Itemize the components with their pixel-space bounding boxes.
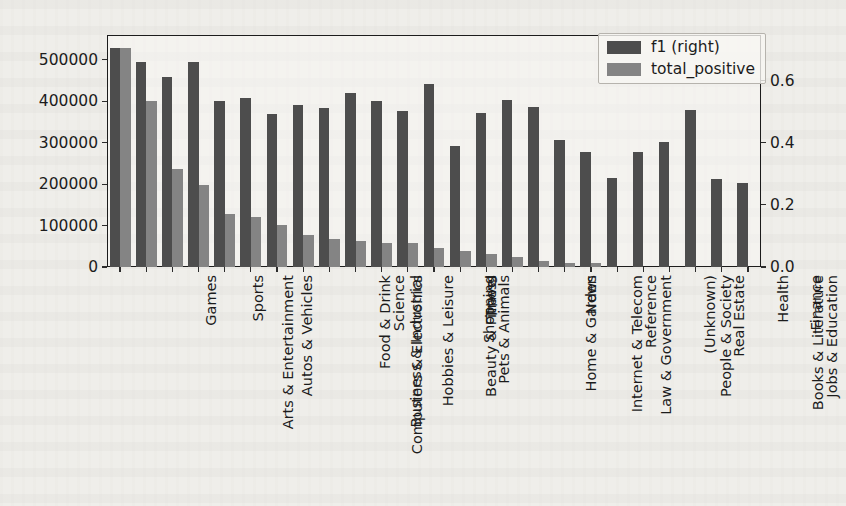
x-axis-category-label: Jobs & Education — [824, 275, 840, 398]
x-axis-tick — [695, 267, 696, 272]
bar-f1 — [319, 108, 329, 267]
chart-figure: 0100000200000300000400000500000 0.00.20.… — [0, 0, 846, 506]
bar-f1 — [528, 107, 538, 267]
left-axis-tick-label: 100000 — [39, 217, 98, 235]
x-axis-category-label: Autos & Vehicles — [299, 275, 315, 396]
bar-f1 — [607, 178, 617, 267]
bar-total-positive — [486, 254, 496, 267]
bar-f1 — [110, 48, 120, 267]
bar-f1 — [162, 77, 172, 267]
x-axis-tick — [329, 267, 330, 272]
legend-entry: f1 (right) — [607, 40, 755, 56]
legend-swatch-icon — [607, 63, 641, 76]
x-axis-tick — [172, 267, 173, 272]
bar-f1 — [293, 105, 303, 267]
bar-f1 — [502, 100, 512, 267]
x-axis-category-label: Finance — [809, 275, 825, 330]
bar-f1 — [737, 183, 747, 267]
bar-total-positive — [329, 239, 339, 267]
left-axis-tick-label: 400000 — [39, 92, 98, 110]
x-axis-tick — [669, 267, 670, 272]
right-axis-tick — [761, 266, 766, 267]
bar-f1 — [633, 152, 643, 267]
bar-total-positive — [146, 101, 156, 267]
x-axis-tick — [250, 267, 251, 272]
bar-total-positive — [408, 243, 418, 267]
x-axis-category-label: Food & Drink — [377, 275, 393, 369]
bar-total-positive — [512, 257, 522, 267]
bar-total-positive — [434, 248, 444, 267]
x-axis-category-label: Hobbies & Leisure — [440, 275, 456, 406]
bar-total-positive — [172, 169, 182, 267]
bar-total-positive — [539, 261, 549, 267]
bar-total-positive — [460, 251, 470, 267]
bar-total-positive — [303, 235, 313, 267]
bar-f1 — [659, 142, 669, 267]
x-axis-category-label: Business & Industrial — [409, 275, 425, 427]
x-axis-tick — [643, 267, 644, 272]
x-axis-tick — [224, 267, 225, 272]
bar-f1 — [685, 110, 695, 267]
bar-total-positive — [120, 48, 130, 267]
bar-total-positive — [277, 225, 287, 267]
x-axis-category-label: Law & Government — [658, 275, 674, 415]
x-axis-category-label: Games — [202, 275, 218, 326]
left-axis-tick-label: 0 — [88, 258, 98, 276]
x-axis-category-label: Health — [775, 275, 791, 323]
x-axis-category-label: Travel — [483, 275, 499, 318]
x-axis-tick — [276, 267, 277, 272]
x-axis-tick — [512, 267, 513, 272]
right-axis-tick-label: 0.4 — [770, 134, 795, 152]
x-axis-category-label: Arts & Entertainment — [280, 275, 296, 429]
bar-total-positive — [591, 263, 601, 267]
x-axis-category-label: Reference — [643, 275, 659, 348]
bar-f1 — [240, 98, 250, 267]
x-axis-tick — [590, 267, 591, 272]
right-axis-tick-label: 0.6 — [770, 72, 795, 90]
bar-f1 — [371, 101, 381, 267]
x-axis-tick — [486, 267, 487, 272]
legend-label: f1 (right) — [651, 40, 720, 56]
bar-f1 — [711, 179, 721, 267]
x-axis-tick — [617, 267, 618, 272]
x-axis-category-label: Sports — [251, 275, 267, 321]
legend-label: total_positive — [651, 62, 755, 78]
bar-total-positive — [356, 241, 366, 268]
legend-swatch-icon — [607, 41, 641, 54]
bar-f1 — [188, 62, 198, 267]
x-axis-tick — [119, 267, 120, 272]
x-axis-tick — [198, 267, 199, 272]
bar-total-positive — [565, 263, 575, 267]
bar-total-positive — [251, 217, 261, 267]
bar-f1 — [424, 84, 434, 267]
bar-f1 — [554, 140, 564, 267]
bar-f1 — [345, 93, 355, 267]
bar-total-positive — [199, 185, 209, 267]
left-axis-tick-label: 500000 — [39, 51, 98, 69]
bar-f1 — [450, 146, 460, 267]
chart-legend: f1 (right)total_positive — [598, 33, 766, 84]
bar-f1 — [397, 111, 407, 267]
x-axis-tick — [460, 267, 461, 272]
x-axis-category-label: Science — [391, 275, 407, 331]
x-axis-tick — [433, 267, 434, 272]
bar-f1 — [267, 114, 277, 267]
x-axis-category-label: (Unknown) — [701, 275, 717, 354]
right-axis-tick — [761, 142, 766, 143]
bar-total-positive — [225, 214, 235, 267]
left-axis-tick-label: 300000 — [39, 134, 98, 152]
right-axis-tick-label: 0.0 — [770, 258, 795, 276]
x-axis-tick — [564, 267, 565, 272]
bar-total-positive — [382, 243, 392, 267]
x-axis-tick — [146, 267, 147, 272]
bar-f1 — [580, 152, 590, 267]
x-axis-category-label: Real Estate — [731, 275, 747, 357]
x-axis-tick — [407, 267, 408, 272]
x-axis-category-label: News — [583, 275, 599, 314]
bar-f1 — [214, 101, 224, 267]
bar-f1 — [136, 62, 146, 267]
x-axis-tick — [538, 267, 539, 272]
right-axis-tick-label: 0.2 — [770, 196, 795, 214]
x-axis-tick — [747, 267, 748, 272]
legend-entry: total_positive — [607, 62, 755, 78]
